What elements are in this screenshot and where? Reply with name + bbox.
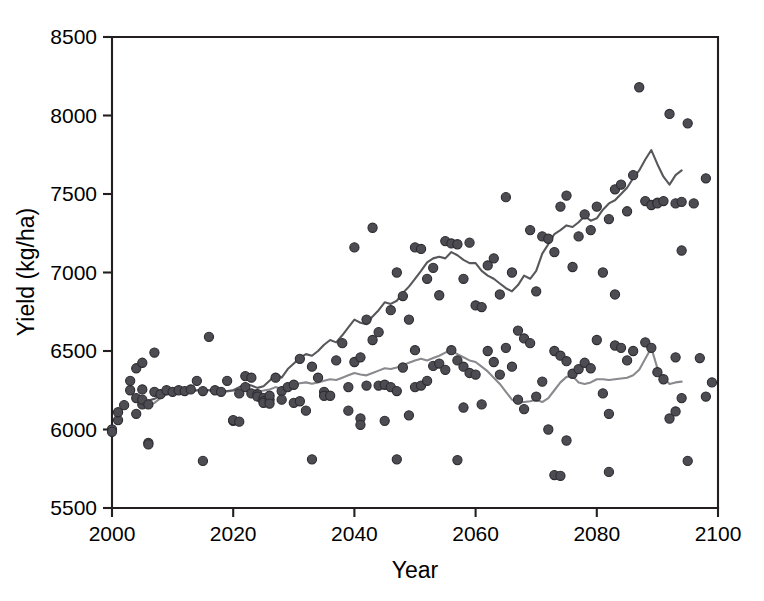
data-point	[326, 391, 335, 400]
data-point	[198, 456, 207, 465]
data-point	[338, 339, 347, 348]
data-point	[574, 232, 583, 241]
data-point	[392, 455, 401, 464]
data-point	[453, 456, 462, 465]
data-point	[356, 353, 365, 362]
data-point	[495, 370, 504, 379]
data-point	[392, 268, 401, 277]
data-point	[344, 383, 353, 392]
data-point	[295, 397, 304, 406]
x-tick-label: 2000	[89, 522, 136, 545]
data-point	[132, 409, 141, 418]
data-point	[410, 346, 419, 355]
data-point	[526, 226, 535, 235]
data-point	[398, 363, 407, 372]
data-point	[562, 191, 571, 200]
data-point	[513, 395, 522, 404]
data-point	[616, 343, 625, 352]
data-point	[604, 409, 613, 418]
data-point	[453, 240, 462, 249]
data-point	[144, 400, 153, 409]
data-point	[689, 199, 698, 208]
data-point	[392, 386, 401, 395]
data-point	[459, 403, 468, 412]
data-point	[701, 392, 710, 401]
data-point	[144, 440, 153, 449]
data-point	[120, 401, 129, 410]
y-axis-tick-labels: 5500600065007000750080008500	[50, 25, 97, 519]
data-point	[235, 417, 244, 426]
data-point	[707, 378, 716, 387]
data-point	[629, 346, 638, 355]
data-point	[635, 83, 644, 92]
data-point	[665, 109, 674, 118]
tick-marks-group	[103, 37, 718, 517]
data-point	[435, 291, 444, 300]
data-point	[598, 268, 607, 277]
data-point	[216, 387, 225, 396]
data-point	[289, 380, 298, 389]
data-point	[271, 373, 280, 382]
data-point	[374, 328, 383, 337]
data-point	[586, 226, 595, 235]
data-point	[610, 290, 619, 299]
axis-frame-top-right	[112, 37, 718, 508]
data-point	[150, 348, 159, 357]
data-point	[507, 268, 516, 277]
data-point	[683, 456, 692, 465]
data-point	[277, 395, 286, 404]
data-point	[368, 335, 377, 344]
data-point	[532, 392, 541, 401]
data-point	[586, 364, 595, 373]
data-point	[701, 174, 710, 183]
data-point	[592, 202, 601, 211]
data-point	[265, 399, 274, 408]
data-point	[604, 467, 613, 476]
data-point	[526, 339, 535, 348]
data-point	[550, 247, 559, 256]
data-point	[307, 455, 316, 464]
data-point	[223, 376, 232, 385]
x-tick-label: 2080	[573, 522, 620, 545]
data-point	[507, 362, 516, 371]
data-point	[447, 346, 456, 355]
x-tick-label: 2020	[210, 522, 257, 545]
data-point	[483, 346, 492, 355]
data-point	[362, 315, 371, 324]
y-tick-label: 8500	[50, 25, 97, 48]
data-point	[671, 353, 680, 362]
x-axis-tick-labels: 200020202040206020802100	[89, 522, 742, 545]
data-point	[404, 411, 413, 420]
data-point	[629, 171, 638, 180]
data-point	[192, 376, 201, 385]
data-point	[562, 436, 571, 445]
data-point	[126, 386, 135, 395]
data-point	[592, 335, 601, 344]
y-tick-label: 5500	[50, 496, 97, 519]
x-axis-title: Year	[392, 557, 439, 583]
data-point	[616, 180, 625, 189]
data-point	[659, 375, 668, 384]
data-point	[138, 385, 147, 394]
data-point	[544, 234, 553, 243]
x-tick-label: 2040	[331, 522, 378, 545]
data-point	[356, 420, 365, 429]
data-point	[677, 394, 686, 403]
y-tick-label: 8000	[50, 104, 97, 127]
data-point	[441, 365, 450, 374]
data-point	[423, 274, 432, 283]
data-point	[477, 302, 486, 311]
data-point	[677, 197, 686, 206]
data-point	[138, 358, 147, 367]
data-point	[513, 326, 522, 335]
data-point	[519, 404, 528, 413]
data-point	[313, 373, 322, 382]
data-point	[495, 290, 504, 299]
data-point	[477, 400, 486, 409]
axes-group	[112, 37, 718, 508]
data-point	[604, 215, 613, 224]
data-point	[489, 357, 498, 366]
x-tick-label: 2060	[452, 522, 499, 545]
data-point	[556, 471, 565, 480]
data-point	[556, 202, 565, 211]
